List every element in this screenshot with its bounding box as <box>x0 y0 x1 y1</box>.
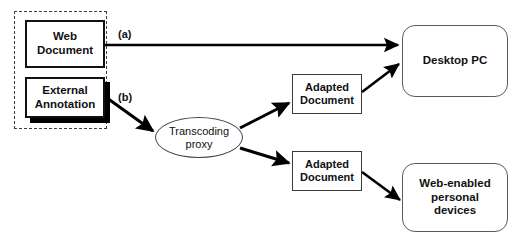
node-desktop-pc-label: Desktop PC <box>423 54 488 68</box>
node-adapted-document-2[interactable]: Adapted Document <box>292 151 362 191</box>
node-web-document-label: Web Document <box>37 30 93 57</box>
arrow-adapted-document-1-to-desktop-pc <box>362 64 399 92</box>
arrow-proxy-to-adapted-document-2 <box>240 148 289 163</box>
node-adapted-document-1-line2: Document <box>300 94 354 106</box>
node-adapted-document-2-label: Adapted Document <box>300 158 354 184</box>
node-transcoding-proxy-line1: Transcoding <box>169 125 229 137</box>
edge-label-b: (b) <box>118 91 132 103</box>
node-desktop-pc[interactable]: Desktop PC <box>402 25 508 97</box>
arrow-proxy-to-adapted-document-1 <box>240 103 289 128</box>
node-web-enabled-devices-line2: personal <box>431 191 479 203</box>
node-external-annotation[interactable]: External Annotation <box>25 77 105 118</box>
node-web-enabled-devices-line3: devices <box>434 204 476 216</box>
arrow-adapted-document-2-to-web-devices <box>362 172 400 200</box>
node-transcoding-proxy-label: Transcoding proxy <box>169 125 229 151</box>
node-external-annotation-line1: External <box>42 84 87 96</box>
node-adapted-document-2-line2: Document <box>300 171 354 183</box>
node-transcoding-proxy-line2: proxy <box>186 138 213 150</box>
node-web-enabled-devices-line1: Web-enabled <box>419 177 490 189</box>
node-adapted-document-1-line1: Adapted <box>305 81 349 93</box>
node-web-enabled-devices-label: Web-enabled personal devices <box>419 177 490 218</box>
node-web-document-line2: Document <box>37 44 93 56</box>
diagram-canvas: Web Document External Annotation Transco… <box>0 0 518 240</box>
node-web-document[interactable]: Web Document <box>25 20 105 68</box>
node-external-annotation-line2: Annotation <box>35 98 96 110</box>
node-adapted-document-1-label: Adapted Document <box>300 81 354 107</box>
node-external-annotation-label: External Annotation <box>35 84 96 111</box>
node-web-enabled-devices[interactable]: Web-enabled personal devices <box>402 163 508 232</box>
node-adapted-document-2-line1: Adapted <box>305 158 349 170</box>
node-adapted-document-1[interactable]: Adapted Document <box>292 74 362 114</box>
edge-label-a: (a) <box>118 28 131 40</box>
node-web-document-line1: Web <box>53 30 77 42</box>
node-transcoding-proxy[interactable]: Transcoding proxy <box>155 117 243 158</box>
